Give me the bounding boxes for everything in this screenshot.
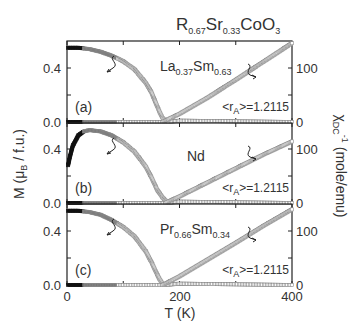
right-y-axis-title: χDC-1 (mole/emu)	[331, 114, 350, 217]
magnetization-series	[67, 282, 294, 287]
compound-label: La0.37Sm0.63	[160, 58, 232, 77]
y-tick-label: 0.4	[43, 61, 61, 76]
x-tick-label: 0	[63, 289, 70, 304]
x-axis: 0 200 400 T (K)	[63, 289, 302, 321]
ra-annotation: <rA>=1.2115	[222, 263, 289, 279]
y-tick-label: 0.0	[43, 196, 61, 211]
panel-b: 0.00.40100(b)Nd<rA>=1.2115	[43, 123, 318, 211]
ra-annotation: <rA>=1.2115	[222, 181, 289, 197]
x-tick-label: 400	[281, 289, 303, 304]
x-tick-label: 200	[169, 289, 191, 304]
panel-label: (c)	[75, 262, 91, 278]
y-right-tick-label: 100	[296, 142, 318, 157]
panel-a: 0.00.40100(a)La0.37Sm0.63<rA>=1.2115	[43, 41, 318, 130]
figure: R0.67Sr0.33CoO3 0.00.40100(a)La0.37Sm0.6…	[0, 0, 361, 332]
y-tick-label: 0.4	[43, 224, 61, 239]
panel-label: (b)	[75, 180, 92, 196]
y-right-tick-label: 0	[296, 196, 303, 211]
left-axis-arrow-icon	[107, 138, 115, 154]
compound-label: Nd	[187, 148, 205, 164]
panel-label: (a)	[75, 99, 92, 115]
y-right-tick-label: 100	[296, 61, 318, 76]
y-right-tick-label: 0	[296, 115, 303, 130]
y-tick-label: 0.0	[43, 278, 61, 293]
compound-label: Pr0.66Sm0.34	[160, 221, 230, 240]
chart-svg: R0.67Sr0.33CoO3 0.00.40100(a)La0.37Sm0.6…	[0, 0, 361, 332]
y-tick-label: 0.0	[43, 115, 61, 130]
panel-c: 0.00.40100(c)Pr0.66Sm0.34<rA>=1.2115	[43, 204, 318, 293]
y-right-tick-label: 100	[296, 224, 318, 239]
chart-title: R0.67Sr0.33CoO3	[176, 15, 280, 36]
y-tick-label: 0.4	[43, 142, 61, 157]
left-y-axis-title: M (μB / f.u.)	[11, 129, 29, 199]
panels: 0.00.40100(a)La0.37Sm0.63<rA>=1.21150.00…	[43, 41, 318, 293]
x-axis-title: T (K)	[165, 305, 196, 321]
ra-annotation: <rA>=1.2115	[222, 100, 289, 116]
